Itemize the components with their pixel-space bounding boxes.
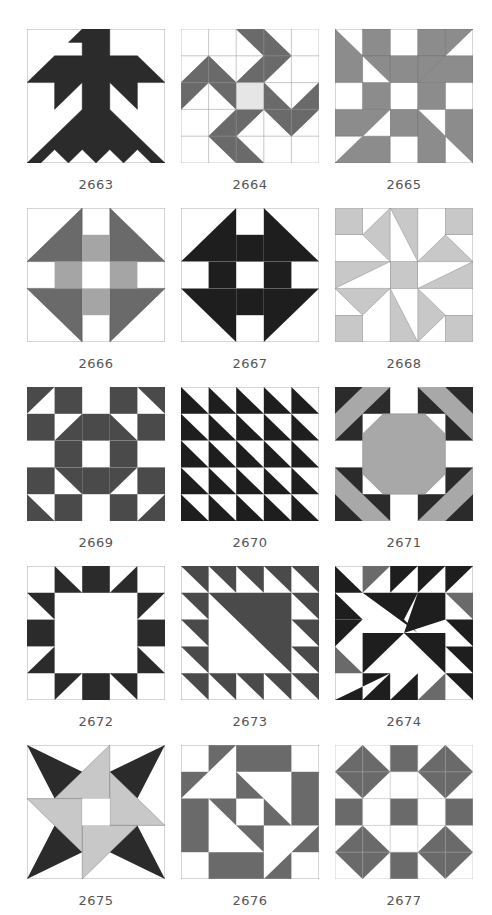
quilt-block-2672: 2672 [27,566,165,700]
quilt-pattern-sawtooth-star-frame [27,566,165,700]
quilt-block-2671: 2671 [335,387,473,521]
quilt-block-2666: 2666 [27,208,165,342]
quilt-block-2663: 2663 [27,29,165,163]
quilt-pattern-half-square-triangles [181,387,319,521]
block-number: 2666 [27,356,165,371]
quilt-block-2667: 2667 [181,208,319,342]
quilt-pattern-gray-pinwheel [335,29,473,163]
quilt-block-2674: 2674 [335,566,473,700]
block-number: 2675 [27,893,165,908]
quilt-block-2668: 2668 [335,208,473,342]
quilt-pattern-light-star [335,208,473,342]
block-number: 2665 [335,177,473,192]
quilt-pattern-triangle-pinwheel [181,745,319,879]
block-number: 2668 [335,356,473,371]
block-number: 2663 [27,177,165,192]
quilt-block-2673: 2673 [181,566,319,700]
quilt-block-2665: 2665 [335,29,473,163]
quilt-block-2675: 2675 [27,745,165,879]
block-number: 2673 [181,714,319,729]
block-number: 2669 [27,535,165,550]
block-number: 2670 [181,535,319,550]
quilt-block-2677: 2677 [335,745,473,879]
quilt-pattern-sawtooth-diagonal [181,566,319,700]
quilt-pattern-octagon-center [335,387,473,521]
block-number: 2664 [181,177,319,192]
block-number: 2667 [181,356,319,371]
quilt-pattern-bird-figure [27,29,165,163]
quilt-pattern-pinwheel-sawtooth [335,566,473,700]
quilt-pattern-pinwheel-chevrons [181,29,319,163]
quilt-block-2669: 2669 [27,387,165,521]
quilt-pattern-ring-checker [27,387,165,521]
block-number: 2672 [27,714,165,729]
quilt-pattern-churn-dash-black [181,208,319,342]
block-number: 2676 [181,893,319,908]
quilt-block-2670: 2670 [181,387,319,521]
quilt-pattern-churn-dash-gray [27,208,165,342]
quilt-pattern-friendship-star [27,745,165,879]
block-number: 2671 [335,535,473,550]
quilt-pattern-diamonds-and-squares [335,745,473,879]
quilt-block-2676: 2676 [181,745,319,879]
block-number: 2677 [335,893,473,908]
quilt-block-2664: 2664 [181,29,319,163]
block-number: 2674 [335,714,473,729]
